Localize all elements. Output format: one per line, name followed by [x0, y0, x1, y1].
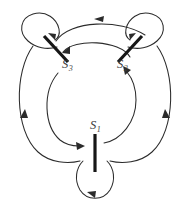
state-diagram-svg — [0, 0, 190, 214]
state-label-s1-sub: 1 — [97, 125, 101, 134]
state-label-s2: S2 — [117, 58, 127, 71]
arrowhead-outer-s1-to-s3 — [20, 109, 28, 118]
arrowhead-self-loop-s2 — [129, 33, 136, 40]
arrowhead-self-loop-s3 — [48, 33, 56, 40]
diagram-canvas: S3 S2 S1 — [0, 0, 190, 214]
arrowhead-outer-s2-to-s1 — [162, 109, 170, 118]
arrowhead-inner-s2-to-s3 — [62, 46, 70, 54]
arrowhead-outer-s3-to-s2 — [94, 16, 104, 22]
transition-inner-s2-to-s3 — [62, 43, 130, 57]
transition-inner-s3-to-s1 — [47, 73, 85, 150]
state-label-s3-base: S — [62, 57, 68, 71]
state-label-s3-sub: 3 — [69, 64, 73, 73]
state-label-s2-base: S — [117, 57, 123, 71]
transition-self-loop-s2 — [126, 13, 164, 48]
transition-inner-s1-to-s2 — [104, 66, 136, 143]
arrowhead-inner-s3-to-s1 — [76, 142, 85, 150]
state-label-s3: S3 — [62, 58, 72, 71]
transition-self-loop-s3 — [22, 13, 60, 48]
state-label-s1: S1 — [90, 119, 100, 132]
state-label-s2-sub: 2 — [124, 64, 128, 73]
state-label-s1-base: S — [90, 118, 96, 132]
